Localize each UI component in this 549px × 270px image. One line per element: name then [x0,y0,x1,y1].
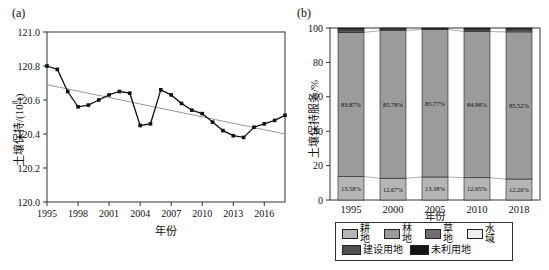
panel-a-xtick-label: 2013 [223,208,243,219]
legend-item-construction-land: 建设用地 [342,245,403,255]
panel-a-ytick-label: 120.8 [18,61,41,72]
panel-a-xtick-label: 2001 [99,208,119,219]
legend-label-unused-land: 未利用地 [431,245,471,255]
legend-swatch-forest-land [384,229,400,239]
panel-a-data-point [283,114,287,118]
figure-canvas: 120.0120.2120.4120.6120.8121.01995199820… [0,0,549,270]
bar-segment-label-cultivated-land: 12.95% [467,185,488,192]
panel-a-data-point [190,108,194,112]
panel-a-data-point [76,105,80,109]
legend-label-grassland: 草地 [443,224,459,244]
panel-a-ylabel-prefix: 土壤保持/(10 [13,104,25,166]
panel-a-xtick-label: 1998 [68,208,88,219]
panel-a-ylabel-suffix: t) [13,94,25,101]
bar-segment-label-forest-land: 85.78% [383,101,404,108]
bar-segment-unused-land [338,28,364,29]
bar-segment-label-forest-land: 85.77% [425,100,446,107]
panel-b-ytick-label: 0 [318,195,323,206]
legend-item-forest-land: 林地 [384,224,419,244]
panel-a-ytick-label: 121.0 [18,27,41,38]
panel-a-xtick-label: 2004 [130,208,150,219]
bar-segment-label-forest-land: 83.87% [341,101,362,108]
panel-a-data-point [221,129,225,133]
panel-a-data-point [242,136,246,140]
panel-a-tag: (a) [12,6,25,21]
legend-swatch-grassland [425,229,441,239]
panel-a-data-point [200,112,204,116]
panel-a-data-point [56,68,60,72]
legend-row: 耕地林地草地水域 [342,226,508,242]
panel-b-ylabel: 土壤保持服务/% [305,80,321,158]
series-connector-line [448,29,464,31]
legend-item-water-area: 水域 [467,224,502,244]
legend-swatch-unused-land [410,245,429,255]
panel-b-ytick-label: 100 [308,23,323,34]
panel-a-ylabel: 土壤保持/(108t) [10,94,26,166]
bar-segment-label-cultivated-land: 12.20% [509,186,530,193]
legend-label-cultivated-land: 耕地 [360,224,376,244]
panel-a-ytick-label: 120.0 [18,197,41,208]
legend-item-grassland: 草地 [425,224,460,244]
legend-label-forest-land: 林地 [402,224,418,244]
panel-a-data-point [231,134,235,138]
series-connector-line [490,178,506,179]
panel-a-data-point [169,93,173,97]
panel-b-ytick-label: 20 [313,160,323,171]
panel-b-tag: (b) [297,6,311,21]
bar-segment-unused-land [464,28,490,29]
panel-a-xtick-label: 2016 [254,208,274,219]
panel-a-xtick-label: 2007 [161,208,181,219]
legend-label-water-area: 水域 [485,224,501,244]
panel-b-xlabel: 年份 [330,208,540,223]
series-connector-line [406,29,422,30]
panel-a-frame [47,32,285,202]
panel-a-data-point [149,122,153,126]
panel-a-data-point [263,122,267,126]
legend-row: 建设用地未利用地 [342,242,508,258]
bar-segment-label-forest-land: 84.98% [467,101,488,108]
panel-b-ytick-label: 80 [313,57,323,68]
panel-a-ylabel-superscript: 8 [11,100,20,104]
panel-a-data-point [211,120,215,124]
panel-a-data-point [159,88,163,92]
panel-a-data-point [45,64,49,68]
bar-segment-label-cultivated-land: 12.67% [383,186,404,193]
bar-segment-label-forest-land: 85.52% [509,102,530,109]
legend-swatch-construction-land [342,245,361,255]
series-connector-line [448,177,464,178]
legend-swatch-water-area [467,229,483,239]
panel-a-data-point [118,90,122,94]
land-use-legend: 耕地林地草地水域建设用地未利用地 [335,222,513,261]
series-connector-line [406,177,422,178]
bar-segment-label-cultivated-land: 13.58% [341,185,362,192]
panel-a-data-point [87,103,91,107]
panel-a-data-point [97,98,101,102]
series-connector-line [364,177,380,179]
series-connector-line [364,31,380,33]
panel-a-data-point [180,102,184,106]
legend-item-unused-land: 未利用地 [410,245,471,255]
panel-a-data-point [252,125,256,129]
panel-a-data-point [66,90,70,94]
legend-swatch-cultivated-land [342,229,358,239]
panel-a-data-point [128,91,132,95]
panel-a-data-point [138,124,142,128]
panel-a-data-point [107,93,111,97]
legend-item-cultivated-land: 耕地 [342,224,377,244]
panel-a-xtick-label: 1995 [37,208,57,219]
bar-segment-label-cultivated-land: 13.38% [425,185,446,192]
panel-a-xlabel: 年份 [47,222,285,238]
panel-a-data-point [273,119,277,123]
legend-label-construction-land: 建设用地 [363,245,403,255]
panel-a-xtick-label: 2010 [192,208,212,219]
